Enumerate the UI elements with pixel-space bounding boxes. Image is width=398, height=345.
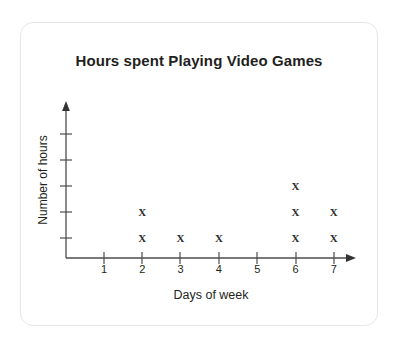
data-marker-day7-level1: X <box>327 231 341 245</box>
x-axis-tick-label-3: 3 <box>171 263 191 275</box>
data-marker-day6-level2: X <box>289 205 303 219</box>
x-axis-tick-label-4: 4 <box>209 263 229 275</box>
data-marker-day6-level1: X <box>289 231 303 245</box>
data-marker-day6-level3: X <box>289 179 303 193</box>
data-marker-day3-level1: X <box>174 231 188 245</box>
y-axis-title: Number of hours <box>36 110 50 250</box>
x-axis-tick-label-1: 1 <box>94 263 114 275</box>
x-axis-tick-label-2: 2 <box>132 263 152 275</box>
data-marker-day2-level2: X <box>135 205 149 219</box>
x-axis-arrowhead <box>346 254 356 262</box>
data-marker-day4-level1: X <box>212 231 226 245</box>
x-axis-tick-label-7: 7 <box>324 263 344 275</box>
x-axis-tick-label-5: 5 <box>247 263 267 275</box>
data-marker-day2-level1: X <box>135 231 149 245</box>
y-axis-group <box>60 101 72 258</box>
data-marker-day7-level2: X <box>327 205 341 219</box>
chart-image: Hours spent Playing Video Games <box>0 0 398 345</box>
x-axis-tick-label-6: 6 <box>286 263 306 275</box>
y-axis-arrowhead <box>62 101 70 111</box>
x-axis-title: Days of week <box>66 288 356 302</box>
